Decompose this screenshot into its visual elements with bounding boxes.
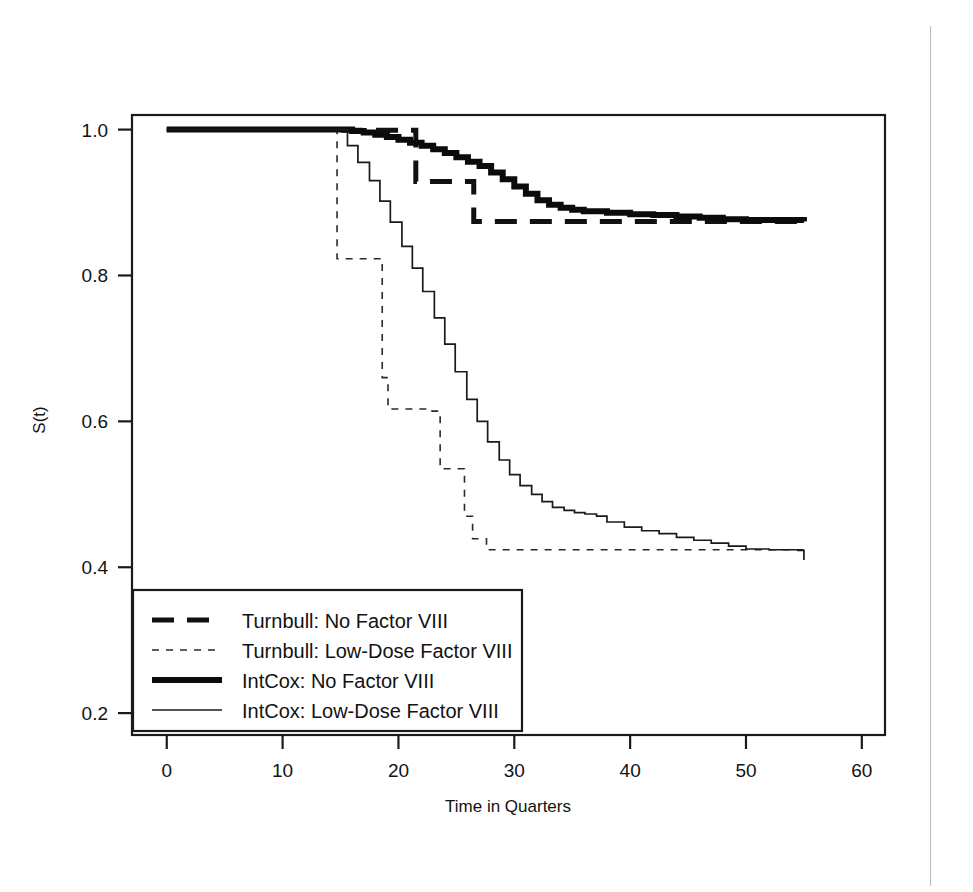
x-tick-label: 60: [851, 760, 872, 781]
y-tick-label: 0.8: [82, 265, 108, 286]
x-tick-label: 40: [620, 760, 641, 781]
y-tick-label: 0.2: [82, 703, 108, 724]
x-tick-label: 0: [161, 760, 172, 781]
legend-label-turnbull-low-dose-factor-viii: Turnbull: Low-Dose Factor VIII: [242, 640, 512, 662]
chart-legend: Turnbull: No Factor VIIITurnbull: Low-Do…: [133, 590, 522, 731]
y-tick-label: 0.4: [82, 557, 109, 578]
x-axis-title: Time in Quarters: [445, 797, 571, 816]
x-tick-label: 20: [388, 760, 409, 781]
page-scan-edge: [930, 26, 931, 886]
y-axis-title: S(t): [30, 406, 49, 433]
y-tick-label: 0.6: [82, 411, 108, 432]
figure-background: [0, 0, 973, 892]
survival-plot-svg: 0102030405060 0.20.40.60.81.0 Time in Qu…: [0, 0, 973, 892]
x-tick-label: 10: [272, 760, 293, 781]
survival-curve-figure: 0102030405060 0.20.40.60.81.0 Time in Qu…: [0, 0, 973, 892]
x-tick-label: 30: [504, 760, 525, 781]
legend-label-intcox-no-factor-viii: IntCox: No Factor VIII: [242, 670, 434, 692]
y-tick-label: 1.0: [82, 120, 108, 141]
legend-label-turnbull-no-factor-viii: Turnbull: No Factor VIII: [242, 610, 448, 632]
x-tick-label: 50: [735, 760, 756, 781]
legend-label-intcox-low-dose-factor-viii: IntCox: Low-Dose Factor VIII: [242, 700, 499, 722]
